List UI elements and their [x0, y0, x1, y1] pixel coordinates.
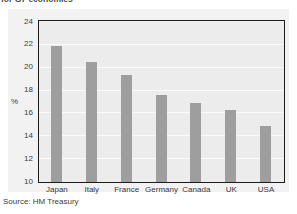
y-axis-tick-22: 22: [24, 40, 33, 48]
y-axis-tick-16: 16: [24, 109, 33, 117]
plot-inner: [39, 21, 284, 182]
x-axis-label-uk: UK: [226, 185, 237, 195]
y-axis-tick-20: 20: [24, 63, 33, 71]
y-axis-title: %: [11, 98, 18, 106]
y-axis-tick-14: 14: [24, 132, 33, 140]
y-axis-tick-12: 12: [24, 155, 33, 163]
y-axis-tick-24: 24: [24, 18, 33, 26]
chart-title-clipped: for G7 economies: [0, 0, 297, 4]
gridline-18: [39, 90, 284, 91]
x-axis-label-france: France: [114, 185, 139, 195]
y-axis-tick-10: 10: [24, 178, 33, 186]
bar-japan: [51, 46, 62, 182]
plot-area: [38, 20, 285, 183]
bar-france: [121, 75, 132, 182]
y-axis-tick-18: 18: [24, 86, 33, 94]
gridline-22: [39, 44, 284, 45]
x-axis-label-germany: Germany: [145, 185, 178, 195]
chart-figure: 1012141618202224 % JapanItalyFranceGerma…: [8, 9, 289, 192]
gridline-20: [39, 67, 284, 68]
x-axis-label-canada: Canada: [182, 185, 210, 195]
x-axis-label-italy: Italy: [84, 185, 99, 195]
bar-uk: [225, 110, 236, 182]
bar-usa: [260, 126, 271, 182]
x-axis-label-japan: Japan: [46, 185, 68, 195]
bar-germany: [156, 95, 167, 182]
source-note: Source: HM Treasury: [3, 197, 79, 207]
chart-title-text: for G7 economies: [0, 0, 297, 4]
bar-canada: [190, 103, 201, 182]
x-axis-label-usa: USA: [258, 185, 274, 195]
bar-italy: [86, 62, 97, 182]
